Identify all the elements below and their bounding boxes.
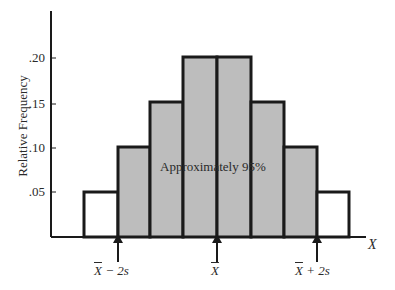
histogram-bar <box>84 192 118 237</box>
histogram-bar <box>217 57 251 237</box>
marker-label-mean: X <box>211 263 219 279</box>
y-tick-label: .15 <box>15 96 45 112</box>
x-bar-symbol: X <box>94 263 102 278</box>
marker-suffix: + 2s <box>303 263 330 278</box>
histogram-bar <box>317 192 349 237</box>
marker-label-plus-2s: X + 2s <box>295 263 330 279</box>
bars-group <box>84 57 349 237</box>
x-bar-symbol: X <box>211 263 219 278</box>
annotation-95-percent: Approximately 95% <box>160 159 266 175</box>
x-bar-symbol: X <box>295 263 303 278</box>
x-axis-label: X <box>368 237 377 253</box>
y-tick-label: .20 <box>15 50 45 66</box>
y-axis-label: Relative Frequency <box>15 71 31 181</box>
histogram-bar <box>183 57 217 237</box>
histogram-plot <box>0 0 395 290</box>
marker-suffix: − 2s <box>102 263 129 278</box>
y-tick-label: .10 <box>15 140 45 156</box>
histogram-bar <box>118 147 150 237</box>
y-tick-label: .05 <box>15 184 45 200</box>
histogram-bar <box>284 147 317 237</box>
marker-label-minus-2s: X − 2s <box>94 263 129 279</box>
